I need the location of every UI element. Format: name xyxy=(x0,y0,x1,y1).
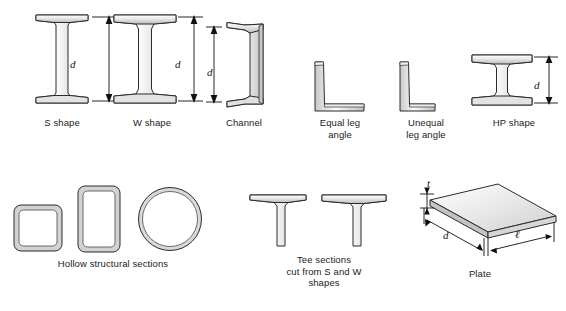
hp-shape-caption: HP shape xyxy=(466,117,562,129)
plate-caption: Plate xyxy=(410,268,550,280)
s-shape-caption: S shape xyxy=(14,117,110,129)
hp-shape-drawing xyxy=(468,52,564,118)
channel-drawing xyxy=(205,22,300,118)
w-shape-drawing xyxy=(110,12,220,118)
w-shape-caption: W shape xyxy=(104,117,200,129)
round-hss-drawing xyxy=(136,185,206,255)
rectangular-hss-drawing xyxy=(76,184,126,256)
tee-sections-caption: Tee sections cut from S and W shapes xyxy=(256,254,392,289)
square-hss-drawing xyxy=(12,203,68,255)
hp-shape-dimension-label: d xyxy=(534,79,540,91)
unequal-leg-angle-drawing xyxy=(395,60,447,118)
s-shape-dimension-label: d xyxy=(70,58,76,70)
equal-leg-angle-caption: Equal leg angle xyxy=(294,117,386,140)
channel-dimension-label: d xyxy=(207,66,213,78)
plate-length-label: ℓ xyxy=(515,228,520,240)
tee-from-w-drawing xyxy=(320,192,392,254)
plate-thickness-label: t xyxy=(427,177,430,189)
channel-caption: Channel xyxy=(198,117,290,129)
w-shape-dimension-label: d xyxy=(175,58,181,70)
tee-from-s-drawing xyxy=(248,192,314,254)
hollow-structural-sections-caption: Hollow structural sections xyxy=(18,258,208,270)
equal-leg-angle-drawing xyxy=(310,60,372,118)
unequal-leg-angle-caption: Unequal leg angle xyxy=(380,117,472,140)
plate-drawing xyxy=(398,176,566,266)
plate-depth-label: d xyxy=(443,229,449,241)
steel-shapes-figure: d S shape d W shape xyxy=(0,0,566,311)
